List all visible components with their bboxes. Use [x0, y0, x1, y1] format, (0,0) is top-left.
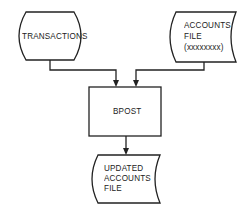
- arrowhead-icon: [123, 148, 129, 155]
- arrowhead-icon: [113, 80, 119, 87]
- accounts-file-label-line1: ACCOUNTS: [184, 20, 231, 31]
- connector-accounts-bpost: [136, 62, 204, 82]
- updated-accounts-file-label-line3: FILE: [104, 183, 122, 194]
- arrowhead-icon: [133, 80, 139, 87]
- transactions-label: TRANSACTIONS: [22, 31, 88, 42]
- bpost-label: BPOST: [113, 106, 141, 117]
- connector-transactions-bpost: [50, 60, 116, 82]
- accounts-file-label-line3: (xxxxxxxx): [184, 42, 224, 53]
- accounts-file-label-line2: FILE: [184, 31, 202, 42]
